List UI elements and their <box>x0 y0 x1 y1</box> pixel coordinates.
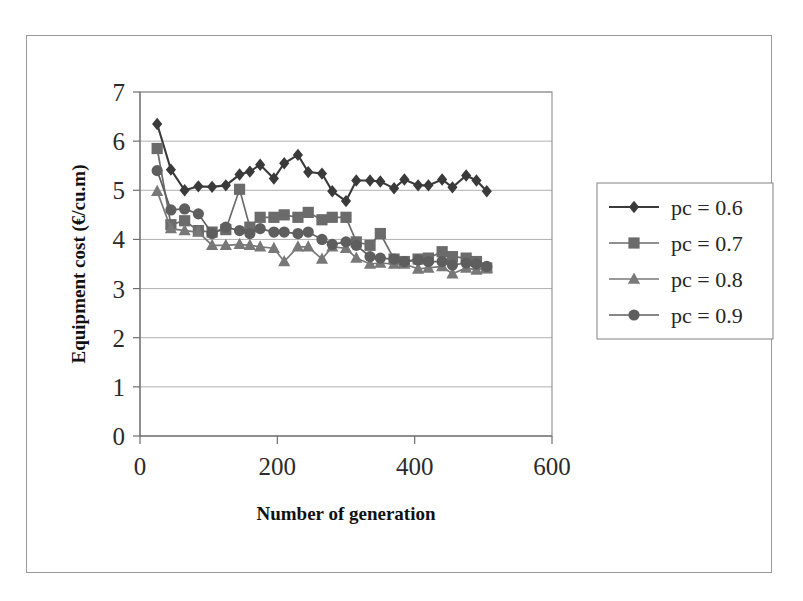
circle-marker <box>279 226 290 237</box>
diamond-marker <box>207 181 217 193</box>
circle-marker <box>152 165 163 176</box>
y-tick-label-4: 4 <box>113 226 126 253</box>
y-tick-label-1: 1 <box>113 374 126 401</box>
circle-marker <box>179 203 190 214</box>
diamond-marker <box>221 179 231 191</box>
square-marker <box>255 212 266 223</box>
circle-marker <box>461 257 472 268</box>
y-axis-tick-labels: 01234567 <box>113 79 126 450</box>
diamond-marker <box>437 173 447 185</box>
circle-marker <box>340 236 351 247</box>
circle-marker <box>471 258 482 269</box>
circle-marker <box>628 309 639 320</box>
y-tick-label-0: 0 <box>113 423 126 450</box>
square-marker <box>234 184 245 195</box>
diamond-marker <box>413 179 423 191</box>
circle-marker <box>234 225 245 236</box>
circle-marker <box>303 226 314 237</box>
diamond-marker <box>152 118 162 130</box>
circle-marker <box>437 256 448 267</box>
circle-marker <box>292 228 303 239</box>
x-tick-label-600: 600 <box>533 453 571 480</box>
diamond-marker <box>245 165 255 177</box>
square-marker <box>268 212 279 223</box>
triangle-marker <box>292 240 304 251</box>
diamond-marker <box>423 179 433 191</box>
y-tick-label-6: 6 <box>113 128 126 155</box>
circle-marker <box>388 253 399 264</box>
x-axis-title: Number of generation <box>256 503 436 524</box>
series-pc-0-6 <box>152 118 492 208</box>
chart-canvas: 01234567 0200400600 Number of generation… <box>0 0 803 601</box>
circle-marker <box>399 256 410 267</box>
diamond-marker <box>234 168 244 180</box>
circle-marker <box>316 234 327 245</box>
data-series-group <box>151 118 493 279</box>
triangle-marker <box>302 240 314 251</box>
y-tick-label-5: 5 <box>113 177 126 204</box>
square-marker <box>292 212 303 223</box>
series-line <box>157 124 487 201</box>
circle-marker <box>255 223 266 234</box>
legend-label: pc = 0.7 <box>671 231 743 256</box>
diamond-marker <box>351 174 361 186</box>
circle-marker <box>351 240 362 251</box>
y-tick-label-7: 7 <box>113 79 126 106</box>
chart-legend[interactable]: pc = 0.6pc = 0.7pc = 0.8pc = 0.9 <box>597 183 773 339</box>
diamond-marker <box>375 175 385 187</box>
circle-marker <box>423 256 434 267</box>
x-tick-label-200: 200 <box>259 453 297 480</box>
square-marker <box>152 143 163 154</box>
circle-marker <box>207 228 218 239</box>
chart-figure: 01234567 0200400600 Number of generation… <box>0 0 803 601</box>
square-marker <box>316 214 327 225</box>
circle-marker <box>244 228 255 239</box>
square-marker <box>437 246 448 257</box>
diamond-marker <box>365 174 375 186</box>
legend-label: pc = 0.8 <box>671 267 743 292</box>
x-tick-label-400: 400 <box>396 453 434 480</box>
square-marker <box>303 207 314 218</box>
circle-marker <box>165 204 176 215</box>
square-marker <box>375 228 386 239</box>
circle-marker <box>364 251 375 262</box>
circle-marker <box>375 253 386 264</box>
x-axis-tick-labels: 0200400600 <box>134 453 571 480</box>
y-tick-label-3: 3 <box>113 276 126 303</box>
square-marker <box>628 237 639 248</box>
circle-marker <box>268 226 279 237</box>
x-tick-label-0: 0 <box>134 453 147 480</box>
y-axis-title: Equipment cost (€/cu.m) <box>68 165 90 364</box>
square-marker <box>279 209 290 220</box>
circle-marker <box>481 261 492 272</box>
legend-label: pc = 0.6 <box>671 195 743 220</box>
y-tick-label-2: 2 <box>113 325 126 352</box>
circle-marker <box>327 239 338 250</box>
circle-marker <box>413 254 424 265</box>
square-marker <box>327 212 338 223</box>
circle-marker <box>193 208 204 219</box>
square-marker <box>340 212 351 223</box>
legend-label: pc = 0.9 <box>671 303 743 328</box>
circle-marker <box>447 259 458 270</box>
circle-marker <box>220 222 231 233</box>
square-marker <box>364 240 375 251</box>
diamond-marker <box>341 195 351 207</box>
